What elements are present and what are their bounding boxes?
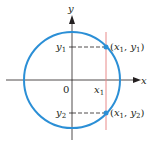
- y2-label: y2: [55, 107, 66, 120]
- point-2-label: (x1, y2): [110, 107, 145, 120]
- x-axis-label: x: [141, 75, 147, 86]
- y-axis-arrow-icon: [69, 15, 75, 24]
- point-1-label: (x1, y1): [110, 41, 145, 54]
- y1-label: y1: [55, 41, 66, 54]
- circle-diagram: x y 0 x1 y1 y2 (x1, y1) (x1, y2): [0, 0, 149, 145]
- x1-label: x1: [94, 84, 104, 97]
- point-2: [104, 111, 109, 116]
- x-axis-arrow-icon: [133, 77, 141, 83]
- origin-label: 0: [63, 84, 69, 95]
- point-1: [104, 45, 109, 50]
- y-axis-label: y: [67, 3, 74, 14]
